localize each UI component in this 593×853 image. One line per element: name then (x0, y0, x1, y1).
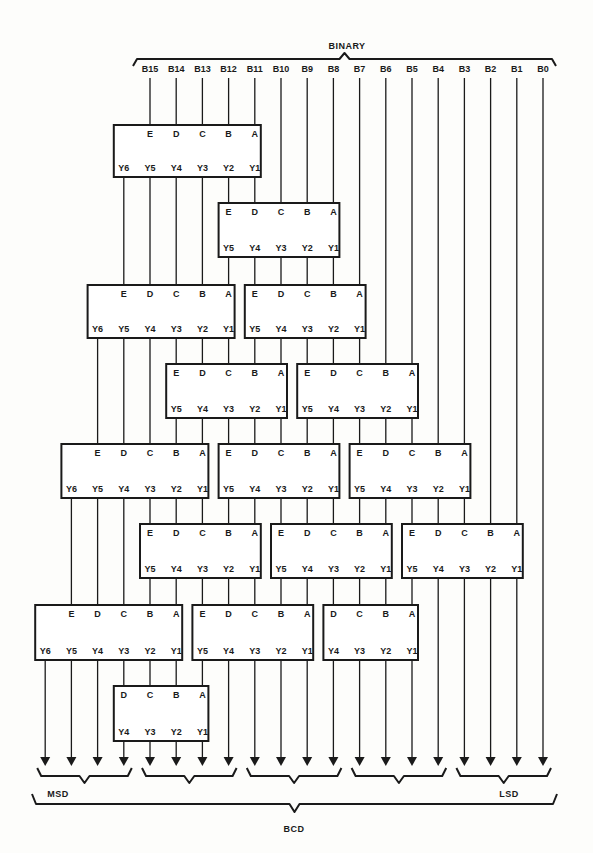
input-pin-label: D (383, 448, 390, 458)
output-pin-label: Y5 (249, 324, 260, 334)
output-pin-label: Y2 (354, 564, 365, 574)
input-pin-label: D (147, 289, 154, 299)
bcd-brace (32, 794, 557, 812)
output-pin-label: Y1 (380, 564, 391, 574)
input-pin-label: C (252, 609, 259, 619)
box-outline (61, 444, 208, 498)
input-bit-label: B3 (459, 64, 471, 74)
braces-layer (32, 53, 557, 812)
input-pin-label: D (330, 368, 337, 378)
arrow-head-icon (224, 757, 234, 766)
input-pin-label: E (304, 368, 310, 378)
binary-label: BINARY (328, 41, 365, 51)
output-pin-label: Y1 (511, 564, 522, 574)
arrow-head-icon (486, 757, 496, 766)
input-pin-label: C (199, 129, 206, 139)
output-pin-label: Y4 (249, 484, 260, 494)
converter-box-r4-b: EDCBAY5Y4Y3Y2Y1 (297, 364, 418, 418)
output-pin-label: Y4 (275, 324, 286, 334)
arrow-head-icon (250, 757, 260, 766)
input-pin-label: D (330, 609, 337, 619)
output-pin-label: Y3 (354, 646, 365, 656)
output-pin-label: Y1 (328, 484, 339, 494)
output-pin-label: Y1 (406, 646, 417, 656)
arrow-head-icon (459, 757, 469, 766)
input-bit-label: B0 (537, 64, 549, 74)
input-bit-label: B4 (432, 64, 444, 74)
converter-box-r8-a: DCBAY4Y3Y2Y1 (114, 686, 209, 741)
output-pin-label: Y3 (249, 646, 260, 656)
output-pin-label: Y4 (302, 564, 313, 574)
output-pin-label: Y5 (118, 324, 129, 334)
output-pin-label: Y1 (275, 404, 286, 414)
output-pin-label: Y5 (354, 484, 365, 494)
output-pin-label: Y1 (249, 564, 260, 574)
binary-to-bcd-converter-diagram: EDCBAY6Y5Y4Y3Y2Y1EDCBAY5Y4Y3Y2Y1EDCBAY6Y… (0, 0, 593, 853)
input-pin-label: D (173, 129, 180, 139)
input-pin-label: A (278, 368, 285, 378)
input-pin-label: B (487, 528, 494, 538)
output-pin-label: Y4 (328, 646, 339, 656)
converter-box-r7-b: EDCBAY5Y4Y3Y2Y1 (192, 605, 313, 660)
input-pin-label: C (278, 207, 285, 217)
output-pin-label: Y5 (275, 564, 286, 574)
converter-box-r4-a: EDCBAY5Y4Y3Y2Y1 (166, 364, 287, 418)
input-pin-label: E (68, 609, 74, 619)
converter-box-r6-b: EDCBAY5Y4Y3Y2Y1 (271, 524, 392, 578)
input-pin-label: E (173, 368, 179, 378)
input-pin-label: B (383, 368, 390, 378)
bcd-digit-brace (37, 768, 132, 783)
box-outline (114, 125, 261, 177)
input-pin-label: B (304, 207, 311, 217)
bcd-digit-brace (142, 768, 237, 783)
input-pin-label: C (356, 609, 363, 619)
input-pin-label: E (147, 129, 153, 139)
input-pin-label: A (304, 609, 311, 619)
output-pin-label: Y5 (302, 404, 313, 414)
input-pin-label: C (461, 528, 468, 538)
output-pin-label: Y3 (328, 564, 339, 574)
arrow-head-icon (538, 757, 548, 766)
output-pin-label: Y2 (328, 324, 339, 334)
input-pin-label: D (225, 609, 232, 619)
input-pin-label: D (121, 690, 128, 700)
output-pin-label: Y1 (328, 243, 339, 253)
box-outline (88, 285, 235, 338)
output-pin-label: Y6 (66, 484, 77, 494)
output-pin-label: Y2 (144, 646, 155, 656)
arrow-head-icon (355, 757, 365, 766)
input-pin-label: C (356, 368, 363, 378)
input-pin-label: E (278, 528, 284, 538)
converter-box-r6-a: EDCBAY5Y4Y3Y2Y1 (140, 524, 261, 578)
input-bit-label: B1 (511, 64, 523, 74)
input-pin-label: E (252, 289, 258, 299)
input-bit-label: B2 (485, 64, 497, 74)
box-outline (35, 605, 182, 660)
converter-box-r5-c: EDCBAY5Y4Y3Y2Y1 (350, 444, 471, 498)
input-pin-label: B (356, 528, 363, 538)
input-pin-label: B (173, 448, 180, 458)
arrow-head-icon (407, 757, 417, 766)
output-pin-label: Y3 (197, 564, 208, 574)
input-pin-label: E (147, 528, 153, 538)
input-pin-label: D (173, 528, 180, 538)
lsd-label: LSD (499, 789, 519, 799)
input-pin-label: A (383, 528, 390, 538)
output-pin-label: Y4 (171, 564, 182, 574)
output-pin-label: Y4 (380, 484, 391, 494)
arrow-head-icon (145, 757, 155, 766)
input-pin-label: C (304, 289, 311, 299)
output-pin-label: Y3 (459, 564, 470, 574)
input-pin-label: A (409, 609, 416, 619)
input-pin-label: A (173, 609, 180, 619)
converter-box-r5-b: EDCBAY5Y4Y3Y2Y1 (219, 444, 340, 498)
output-pin-label: Y5 (144, 564, 155, 574)
output-pin-label: Y4 (249, 243, 260, 253)
input-pin-label: B (435, 448, 442, 458)
output-pin-label: Y4 (328, 404, 339, 414)
input-pin-label: B (199, 289, 206, 299)
input-pin-label: D (278, 289, 285, 299)
converter-box-r3-a: EDCBAY6Y5Y4Y3Y2Y1 (88, 285, 235, 338)
input-bit-label: B12 (220, 64, 237, 74)
output-pin-label: Y3 (275, 484, 286, 494)
